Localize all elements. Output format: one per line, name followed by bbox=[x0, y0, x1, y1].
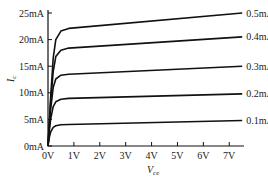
y-tick-label: 10mA bbox=[19, 87, 45, 98]
series-labels: 0.1mA0.2mA0.3mA0.4mA0.5mA bbox=[246, 8, 268, 126]
x-tick-label: 4V bbox=[145, 150, 158, 161]
curve-0-5mA bbox=[48, 13, 242, 146]
series-label: 0.5mA bbox=[246, 8, 268, 19]
x-tick-label: 5V bbox=[171, 150, 184, 161]
x-axis-label: Vce bbox=[147, 164, 159, 177]
transistor-output-chart: 0mA5mA10mA15mA20mA25mA 0V1V2V3V4V5V6V7V … bbox=[0, 0, 268, 182]
y-axis-label: Ic bbox=[5, 75, 18, 83]
series-label: 0.2mA bbox=[246, 88, 268, 99]
x-tick-label: 1V bbox=[68, 150, 81, 161]
y-tick-label: 15mA bbox=[19, 61, 45, 72]
curves bbox=[48, 13, 242, 146]
series-label: 0.4mA bbox=[246, 31, 268, 42]
y-axis-ticks: 0mA5mA10mA15mA20mA25mA bbox=[19, 8, 52, 152]
x-tick-label: 6V bbox=[197, 150, 210, 161]
y-tick-label: 25mA bbox=[19, 8, 45, 19]
x-axis-ticks: 0V1V2V3V4V5V6V7V bbox=[42, 142, 236, 161]
y-tick-label: 5mA bbox=[24, 114, 45, 125]
curve-0-4mA bbox=[48, 37, 242, 146]
x-tick-label: 3V bbox=[120, 150, 133, 161]
x-tick-label: 2V bbox=[94, 150, 107, 161]
series-label: 0.3mA bbox=[246, 61, 268, 72]
x-tick-label: 7V bbox=[223, 150, 236, 161]
curve-0-1mA bbox=[48, 121, 242, 147]
axes bbox=[48, 10, 244, 146]
series-label: 0.1mA bbox=[246, 115, 268, 126]
curve-0-3mA bbox=[48, 66, 242, 146]
y-tick-label: 20mA bbox=[19, 34, 45, 45]
curve-0-2mA bbox=[48, 94, 242, 146]
x-tick-label: 0V bbox=[42, 150, 55, 161]
